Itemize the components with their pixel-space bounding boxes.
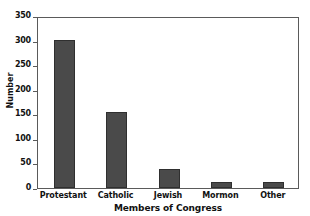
bar — [159, 169, 180, 188]
bar — [106, 112, 127, 188]
y-axis-tick-label: 50 — [20, 158, 31, 167]
plot-area — [38, 18, 298, 188]
x-axis-label: Mormon — [194, 191, 246, 201]
x-axis-title: Members of Congress — [37, 203, 299, 214]
x-axis-label: Catholic — [89, 191, 141, 201]
x-axis-label: Protestant — [37, 191, 89, 201]
y-axis-tick-label: 0 — [26, 183, 31, 192]
y-axis-tick-label: 350 — [15, 11, 31, 20]
y-axis-tick-label: 200 — [15, 85, 31, 94]
y-axis: 050100150200250300350 — [0, 17, 37, 189]
y-axis-tick-label: 250 — [15, 60, 31, 69]
y-axis-tick-label: 100 — [15, 134, 31, 143]
bar — [211, 182, 232, 188]
bar-chart: Number 050100150200250300350 ProtestantC… — [0, 0, 310, 216]
y-axis-tick-label: 150 — [15, 109, 31, 118]
x-axis-label: Other — [247, 191, 299, 201]
y-axis-tick-label: 300 — [15, 36, 31, 45]
x-axis-labels: ProtestantCatholicJewishMormonOther — [37, 191, 299, 203]
plot-frame — [37, 17, 299, 189]
x-axis-label: Jewish — [142, 191, 194, 201]
bar — [263, 182, 284, 188]
y-axis-tick-mark — [33, 189, 37, 190]
bar — [54, 40, 75, 188]
